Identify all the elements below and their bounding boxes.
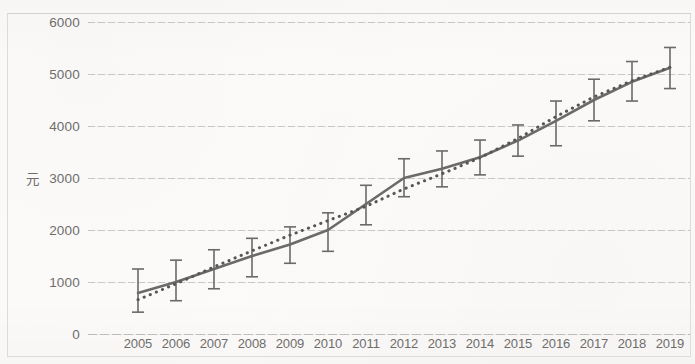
x-tick-2006: 2006: [162, 336, 191, 351]
y-tick-0: 0: [72, 327, 80, 342]
x-tick-2005: 2005: [124, 336, 153, 351]
x-tick-2019: 2019: [656, 336, 685, 351]
error-bars: [132, 47, 676, 312]
x-tick-2017: 2017: [580, 336, 609, 351]
x-tick-2013: 2013: [428, 336, 457, 351]
x-tick-2010: 2010: [314, 336, 343, 351]
y-tick-6000: 6000: [49, 15, 80, 30]
x-tick-2014: 2014: [466, 336, 495, 351]
y-axis-tick-labels: 6000500040003000200010000: [0, 22, 80, 334]
gridline: [88, 334, 690, 335]
plot-area: [88, 22, 690, 334]
x-tick-2009: 2009: [276, 336, 305, 351]
x-tick-2012: 2012: [390, 336, 419, 351]
x-tick-2015: 2015: [504, 336, 533, 351]
chart-container: 6000500040003000200010000 元 200520062007…: [0, 0, 695, 364]
plot-svg: [88, 22, 690, 334]
y-tick-1000: 1000: [49, 275, 80, 290]
y-tick-3000: 3000: [49, 171, 80, 186]
x-axis-tick-labels: 2005200620072008200920102011201220132014…: [88, 336, 690, 358]
x-tick-2016: 2016: [542, 336, 571, 351]
y-tick-2000: 2000: [49, 223, 80, 238]
x-tick-2008: 2008: [238, 336, 267, 351]
series-1: [132, 47, 676, 312]
y-tick-4000: 4000: [49, 119, 80, 134]
y-tick-5000: 5000: [49, 67, 80, 82]
x-tick-2011: 2011: [352, 336, 380, 351]
y-axis-title: 元: [26, 168, 39, 188]
x-tick-2018: 2018: [618, 336, 647, 351]
x-tick-2007: 2007: [200, 336, 229, 351]
